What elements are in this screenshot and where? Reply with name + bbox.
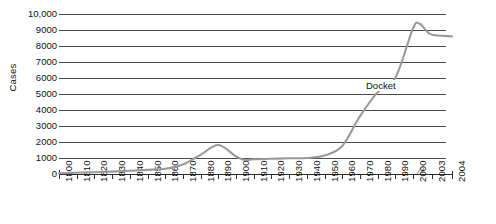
chart-container: Cases 0100020003000400050006000700080009… — [0, 0, 496, 224]
series-line-docket — [59, 22, 452, 173]
data-series-svg — [0, 0, 496, 224]
series-label-docket: Docket — [364, 80, 398, 91]
